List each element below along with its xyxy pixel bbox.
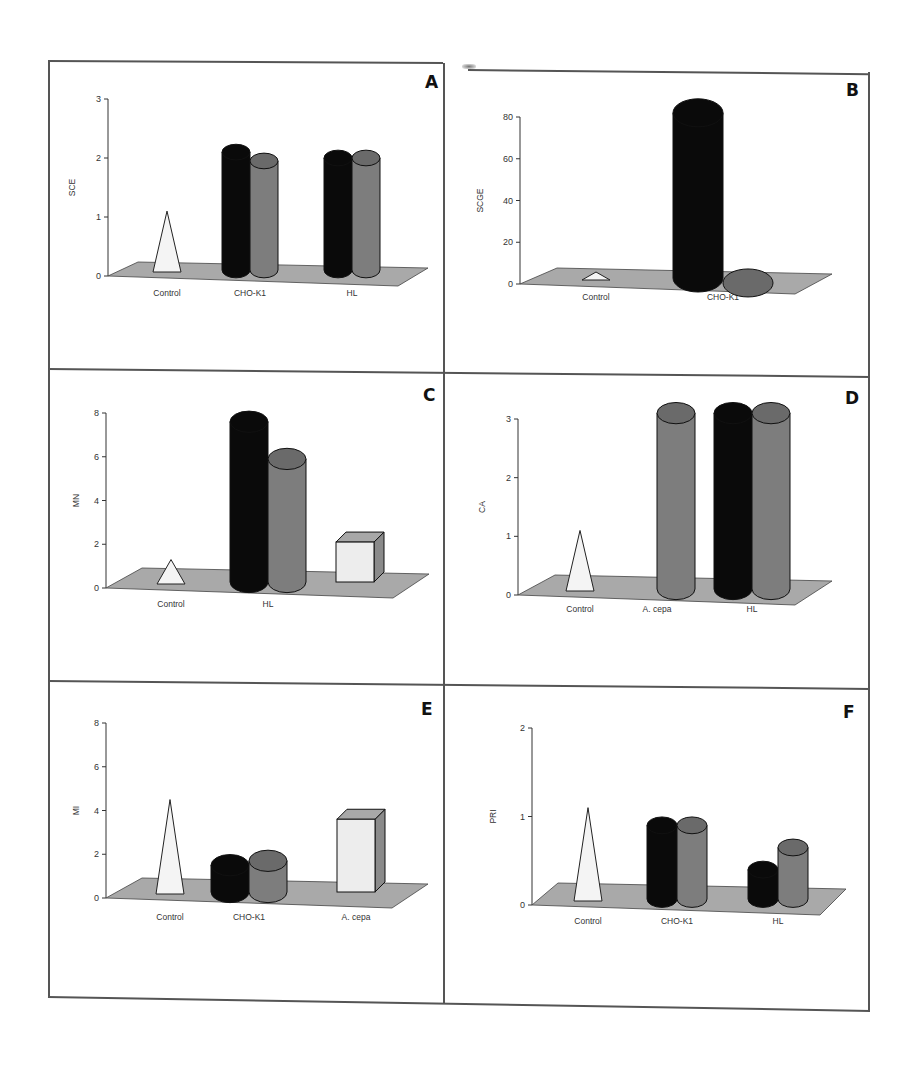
y-axis-label: PRI [488, 809, 498, 823]
y-tick-label: 2 [520, 723, 525, 733]
black-cylinder-bar [647, 825, 677, 907]
black-cylinder-top [748, 861, 778, 878]
chart-svg: 012PRIControlCHO-K1HL [0, 0, 914, 1068]
gray-cylinder-bar [677, 825, 707, 907]
y-tick-label: 1 [520, 812, 525, 822]
gray-cylinder-top [677, 817, 707, 834]
category-label: Control [574, 916, 602, 926]
category-label: HL [773, 916, 784, 926]
chart-panel-f-pri: 012PRIControlCHO-K1HL [0, 0, 914, 1068]
y-tick-label: 0 [520, 900, 525, 910]
gray-cylinder-top [778, 839, 808, 856]
category-label: CHO-K1 [661, 916, 693, 926]
gray-cylinder-bar [778, 847, 808, 907]
control-cone [574, 808, 602, 901]
black-cylinder-top [647, 817, 677, 834]
